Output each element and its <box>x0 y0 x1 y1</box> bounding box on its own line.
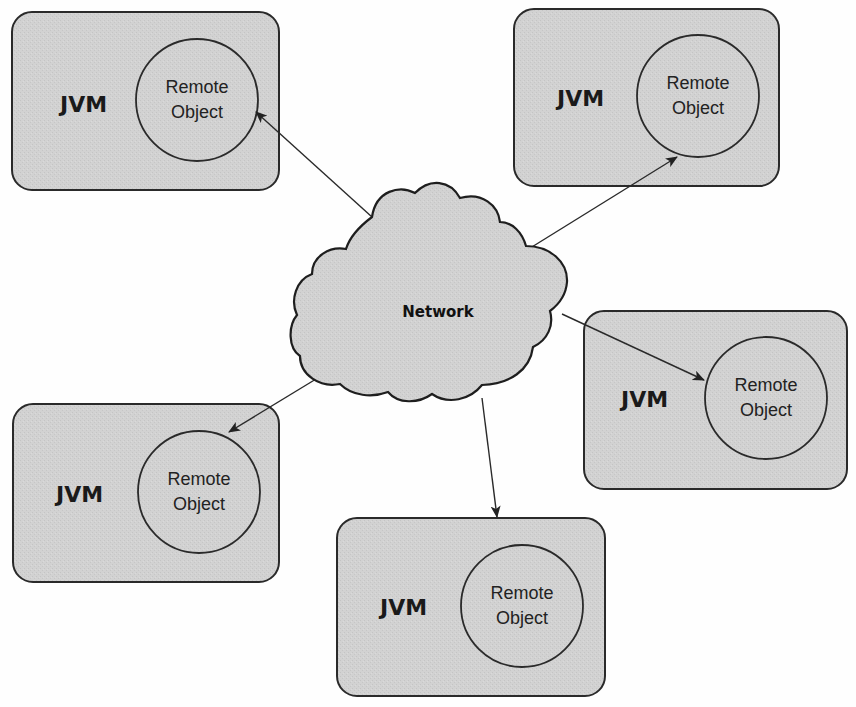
jvm-label: JVM <box>54 482 103 507</box>
remote-object-label-line2: Object <box>171 102 223 122</box>
remote-object-circle <box>637 35 759 157</box>
network-label: Network <box>402 303 474 321</box>
jvm-label: JVM <box>378 595 427 620</box>
remote-object-circle <box>461 545 583 667</box>
cloud-shape <box>291 183 567 401</box>
remote-object-label-line1: Remote <box>734 375 797 395</box>
remote-object-label-line2: Object <box>672 98 724 118</box>
jvm-label: JVM <box>58 92 107 117</box>
jvm-label: JVM <box>555 86 604 111</box>
jvm-node-top-right: JVM Remote Object <box>514 9 779 186</box>
remote-object-label-line2: Object <box>496 608 548 628</box>
remote-object-circle <box>136 39 258 161</box>
jvm-node-bottom-left: JVM Remote Object <box>13 404 279 582</box>
remote-object-label-line2: Object <box>173 494 225 514</box>
remote-object-circle <box>705 337 827 459</box>
jvm-node-top-left: JVM Remote Object <box>12 12 279 190</box>
remote-object-label-line2: Object <box>740 400 792 420</box>
remote-object-label-line1: Remote <box>666 73 729 93</box>
jvm-node-bottom-center: JVM Remote Object <box>337 518 605 696</box>
network-cloud: Network <box>291 183 567 401</box>
jvm-node-middle-right: JVM Remote Object <box>584 311 847 489</box>
remote-object-label-line1: Remote <box>167 469 230 489</box>
jvm-label: JVM <box>619 387 668 412</box>
remote-object-label-line1: Remote <box>165 77 228 97</box>
remote-object-label-line1: Remote <box>490 583 553 603</box>
diagram-canvas: JVM Remote Object JVM Remote Object JVM … <box>0 0 856 707</box>
diagram-svg: JVM Remote Object JVM Remote Object JVM … <box>0 0 856 707</box>
remote-object-circle <box>138 431 260 553</box>
arrow-to-bottom-center <box>482 398 497 517</box>
